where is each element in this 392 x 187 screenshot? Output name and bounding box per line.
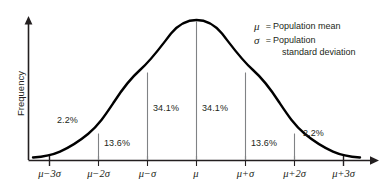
percent-label-left-inner: 34.1% bbox=[153, 103, 179, 113]
y-axis-arrowhead bbox=[25, 16, 33, 25]
mu-symbol: μ bbox=[254, 20, 264, 32]
sigma-symbol: σ bbox=[254, 34, 264, 46]
legend-sigma-line1: Population bbox=[273, 35, 316, 45]
sigma-symbol: σ bbox=[151, 168, 156, 179]
percent-label-right-mid: 13.6% bbox=[251, 138, 277, 148]
equals-sign: = bbox=[264, 20, 273, 32]
legend-row-mu: μ = Population mean bbox=[254, 20, 356, 32]
percent-label-right-outer: 2.2% bbox=[303, 128, 324, 138]
operator bbox=[199, 168, 200, 179]
percent-label-right-inner: 34.1% bbox=[202, 103, 228, 113]
sigma-symbol: σ bbox=[301, 168, 306, 179]
legend-sigma-line2: standard deviation bbox=[273, 46, 356, 58]
operator: + bbox=[242, 168, 249, 179]
percent-label-left-outer: 2.2% bbox=[57, 115, 78, 125]
mu-symbol: μ bbox=[193, 168, 198, 179]
sigma-symbol: σ bbox=[56, 168, 61, 179]
percent-label-left-mid: 13.6% bbox=[104, 138, 130, 148]
y-axis-title: Frequency bbox=[15, 51, 26, 137]
legend-sigma-definition: Population standard deviation bbox=[273, 34, 356, 58]
sigma-symbol: σ bbox=[350, 168, 355, 179]
equals-sign: = bbox=[264, 34, 273, 46]
sigma-symbol: σ bbox=[249, 168, 254, 179]
x-axis-label-plus-3-sigma: μ+3σ bbox=[313, 168, 374, 179]
normal-distribution-figure: Frequency 2.2% 13.6% 34.1% 34.1% 13.6% 2… bbox=[0, 0, 392, 187]
operator: − bbox=[144, 168, 151, 179]
x-axis-arrowhead bbox=[370, 156, 379, 164]
legend-mu-definition: Population mean bbox=[273, 20, 341, 32]
legend: μ = Population mean σ = Population stand… bbox=[254, 20, 356, 60]
legend-row-sigma: σ = Population standard deviation bbox=[254, 34, 356, 58]
sigma-symbol: σ bbox=[105, 168, 110, 179]
